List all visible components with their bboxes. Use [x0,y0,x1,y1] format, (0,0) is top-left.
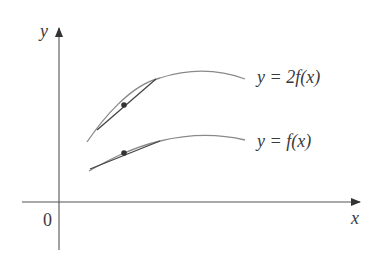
curve-label-f-prefix: y = [257,131,286,151]
y-axis-label: y [40,22,48,40]
origin-label: 0 [43,211,52,229]
curve-label-f: y = f(x) [257,132,311,150]
diagram-canvas [0,0,390,264]
curve-label-2f-arg: (x) [300,67,320,87]
x-axis-label: x [351,209,359,227]
curve-f [89,136,245,171]
curve-2f [87,71,245,142]
diagram-figure: y x 0 y = 2f(x) y = f(x) [0,0,390,264]
tangent-point-f [121,150,127,156]
tangent-point-2f [121,102,127,108]
curve-label-2f: y = 2f(x) [257,68,320,86]
curve-label-2f-prefix: y = 2 [257,67,295,87]
curve-label-f-arg: (x) [291,131,311,151]
